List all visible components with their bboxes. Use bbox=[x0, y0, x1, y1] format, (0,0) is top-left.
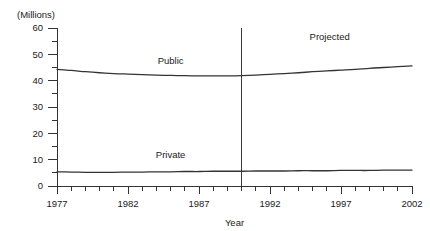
line-chart: 0102030405060197719821987199219972002 Pu… bbox=[0, 0, 430, 231]
axis-layer bbox=[57, 28, 412, 186]
x-axis-title: Year bbox=[225, 217, 244, 228]
tick-marks-layer bbox=[48, 28, 412, 194]
y-axis-tick-label: 50 bbox=[32, 49, 43, 60]
axis-spines bbox=[57, 28, 412, 186]
y-axis-tick-label: 40 bbox=[32, 75, 43, 86]
x-axis-tick-label: 1997 bbox=[330, 198, 351, 209]
series-label-private: Private bbox=[156, 149, 186, 160]
y-axis-tick-label: 0 bbox=[38, 180, 43, 191]
series-label-public: Public bbox=[158, 55, 184, 66]
y-axis-unit-label: (Millions) bbox=[17, 9, 55, 20]
x-axis-tick-label: 1977 bbox=[46, 198, 67, 209]
data-series-layer bbox=[57, 66, 412, 172]
chart-labels-layer: PublicPrivateProjected(Millions)Year bbox=[17, 9, 350, 228]
y-axis-tick-label: 10 bbox=[32, 154, 43, 165]
series-line-public bbox=[57, 66, 412, 76]
series-line-private bbox=[57, 170, 412, 172]
x-axis-tick-label: 2002 bbox=[401, 198, 422, 209]
chart-container: 0102030405060197719821987199219972002 Pu… bbox=[0, 0, 430, 231]
y-axis-tick-label: 30 bbox=[32, 101, 43, 112]
x-axis-tick-label: 1992 bbox=[259, 198, 280, 209]
x-axis-tick-label: 1987 bbox=[188, 198, 209, 209]
x-axis-tick-label: 1982 bbox=[117, 198, 138, 209]
y-axis-tick-label: 60 bbox=[32, 22, 43, 33]
y-axis-tick-label: 20 bbox=[32, 128, 43, 139]
tick-labels-layer: 0102030405060197719821987199219972002 bbox=[32, 22, 422, 209]
annotation-projected: Projected bbox=[310, 31, 350, 42]
